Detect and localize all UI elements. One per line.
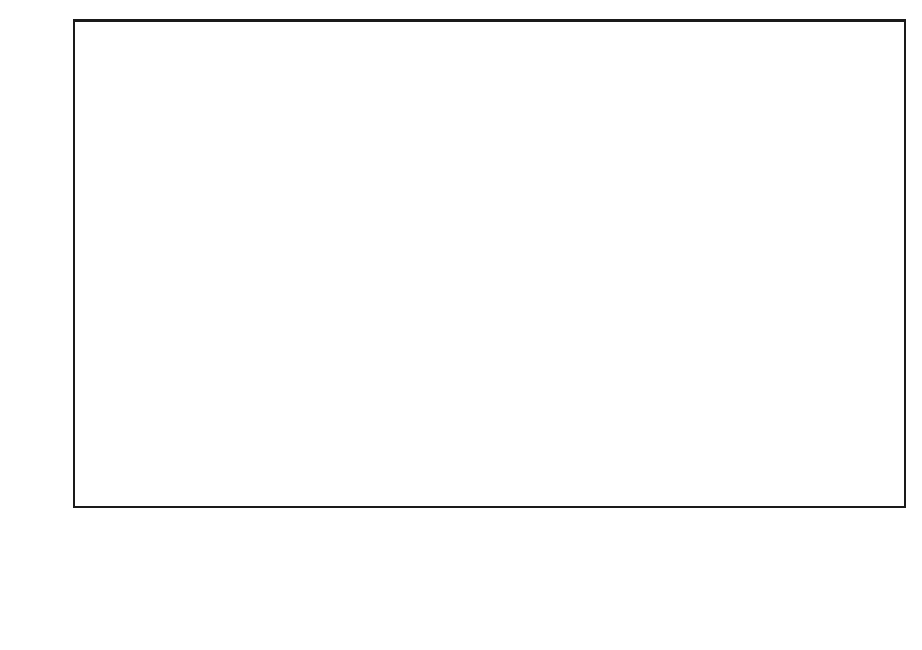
x-axis xyxy=(73,516,906,586)
chart-page xyxy=(0,0,922,650)
chart-legend xyxy=(0,606,922,650)
plot-area xyxy=(73,19,906,508)
bars-container xyxy=(75,22,904,506)
y-axis xyxy=(0,0,68,530)
